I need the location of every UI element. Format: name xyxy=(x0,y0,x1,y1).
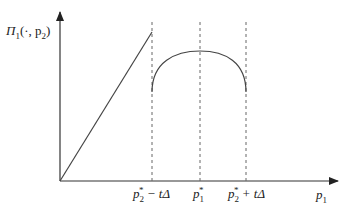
x-axis-label: p1 xyxy=(316,188,327,205)
concave-profit-arc xyxy=(152,51,246,92)
tick-label-left: p2* − tΔ xyxy=(133,186,170,204)
profit-function-diagram: Π1(·, p2) p1 p2* − tΔ p1* p2* + tΔ xyxy=(0,0,350,206)
linear-profit-segment xyxy=(60,32,152,181)
tick-label-mid: p1* xyxy=(193,186,204,204)
y-axis-label: Π1(·, p2) xyxy=(6,24,50,41)
diagram-canvas xyxy=(0,0,350,206)
tick-label-right: p2* + tΔ xyxy=(228,186,265,204)
